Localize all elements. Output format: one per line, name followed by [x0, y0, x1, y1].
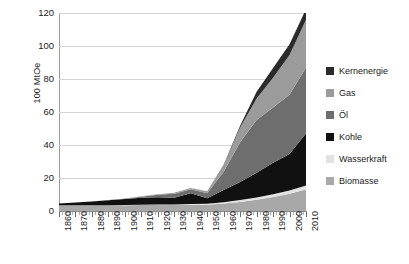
x-axis-tick-label: 1880: [96, 211, 106, 231]
legend-item-wasserkraft[interactable]: Wasserkraft: [326, 148, 409, 170]
stacked-area-series: [59, 13, 306, 211]
legend-item-label: Biomasse: [339, 176, 379, 186]
legend-item-biomasse[interactable]: Biomasse: [326, 170, 409, 192]
y-axis-tick-label: 20: [22, 173, 54, 183]
y-axis-tick-label: 0: [22, 206, 54, 216]
y-axis-tick-label: 60: [22, 107, 54, 117]
x-axis-tick-label: 1910: [145, 211, 155, 231]
x-axis-tick-label: 1890: [112, 211, 122, 231]
x-axis-tick-label: 1980: [261, 211, 271, 231]
y-axis-tick-label: 40: [22, 140, 54, 150]
x-axis-tick-label: 2000: [294, 211, 304, 231]
legend-item-kernenergie[interactable]: Kernenergie: [326, 60, 409, 82]
x-axis-tick-label: 1970: [244, 211, 254, 231]
legend-swatch-icon: [326, 155, 334, 163]
x-axis-tick-label: 1860: [63, 211, 73, 231]
legend-item-label: Kohle: [339, 132, 362, 142]
x-axis-tick-label: 1870: [79, 211, 89, 231]
x-axis-tick-label: 1900: [129, 211, 139, 231]
legend-item-label: Gas: [339, 88, 356, 98]
y-axis-tick-labels: 020406080100120: [22, 0, 54, 226]
y-axis-tick-label: 100: [22, 41, 54, 51]
legend-swatch-icon: [326, 67, 334, 75]
x-axis-tick-label: 2010: [310, 211, 320, 231]
x-axis-tick-label: 1920: [162, 211, 172, 231]
legend-swatch-icon: [326, 89, 334, 97]
y-axis-tick-label: 120: [22, 8, 54, 18]
legend-item--l[interactable]: Öl: [326, 104, 409, 126]
x-axis-tick-label: 1930: [178, 211, 188, 231]
legend-swatch-icon: [326, 177, 334, 185]
y-axis-tick-label: 80: [22, 74, 54, 84]
x-axis-tick-label: 1960: [228, 211, 238, 231]
legend-item-gas[interactable]: Gas: [326, 82, 409, 104]
legend-item-label: Wasserkraft: [339, 154, 387, 164]
x-axis-tick-label: 1990: [277, 211, 287, 231]
x-axis-tick-labels: 1860187018801890190019101920193019401950…: [59, 217, 307, 261]
plot-area: [59, 13, 306, 211]
legend-swatch-icon: [326, 111, 334, 119]
legend-item-label: Öl: [339, 110, 348, 120]
legend-item-label: Kernenergie: [339, 66, 388, 76]
x-axis-tick-label: 1940: [195, 211, 205, 231]
legend-swatch-icon: [326, 133, 334, 141]
energy-consumption-area-chart: 100 MtOe 020406080100120 186018701880189…: [0, 0, 409, 264]
legend-item-kohle[interactable]: Kohle: [326, 126, 409, 148]
x-axis-tick-label: 1950: [211, 211, 221, 231]
chart-legend: KernenergieGasÖlKohleWasserkraftBiomasse: [326, 60, 409, 192]
